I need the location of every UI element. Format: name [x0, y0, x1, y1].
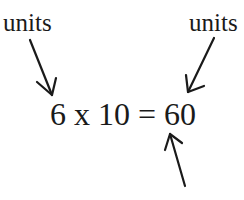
arrows: [0, 0, 244, 200]
up-arrow-icon: [165, 134, 185, 186]
left-arrow-icon: [30, 40, 56, 95]
right-arrow-icon: [186, 38, 214, 92]
